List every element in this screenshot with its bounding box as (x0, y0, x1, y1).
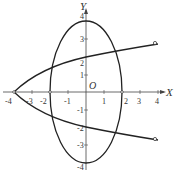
x-tick-label: -2 (40, 97, 47, 106)
x-tick-label: 4 (155, 97, 159, 106)
y-tick-label: -3 (77, 141, 84, 150)
y-tick-label: 4 (80, 12, 84, 21)
x-axis-label: X (165, 86, 174, 98)
ellipse-x-intercept-right (121, 91, 124, 94)
coordinate-diagram: -4 -3 -2 -1 1 2 3 4 4 3 2 1 -1 -2 -3 -4 … (0, 0, 176, 173)
open-endpoint-upper (153, 41, 156, 44)
open-endpoint-lower (153, 137, 156, 140)
y-tick-label: -4 (77, 163, 84, 172)
x-tick-label: 3 (137, 97, 141, 106)
x-tick-label: -3 (26, 97, 33, 106)
y-tick-label: -2 (77, 124, 84, 133)
x-tick-label: 1 (102, 97, 106, 106)
y-tick-label: 2 (80, 59, 84, 68)
x-tick-label: 2 (124, 97, 128, 106)
vertex-point (13, 91, 16, 94)
ellipse-x-intercept-left (49, 91, 52, 94)
y-tick-label: 3 (80, 35, 84, 44)
y-tick-label: 1 (80, 71, 84, 80)
x-tick-label: -4 (5, 97, 12, 106)
y-axis-label: Y (80, 0, 88, 12)
origin-label: O (89, 80, 96, 91)
y-tick-label: -1 (77, 106, 84, 115)
x-tick-label: -1 (64, 97, 71, 106)
